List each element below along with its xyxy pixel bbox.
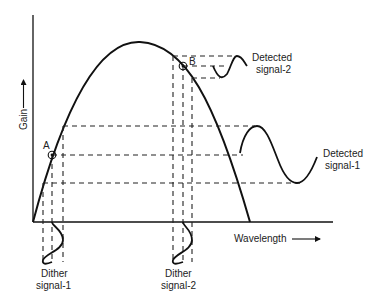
gain-wavelength-diagram: Gain Wavelength A B Detected si [0,0,381,303]
wavelength-label: Wavelength [234,233,286,244]
dither-signal-1-label-line2: signal-1 [36,280,71,291]
y-axis-label: Gain [18,80,29,130]
dither-signal-2-wave [173,222,192,264]
detected-signal-2-label-line1: Detected [252,52,292,63]
point-a-label: A [43,140,50,151]
dither-signal-1-label-line1: Dither [41,268,68,279]
dither-2-guides [173,56,237,262]
detected-signal-2-wave [213,56,247,77]
gain-curve [33,42,250,222]
detected-signal-2-label-line2: signal-2 [256,64,291,75]
dither-signal-2-label-line2: signal-2 [161,280,196,291]
gain-label: Gain [18,109,29,130]
detected-signal-1-label-line2: signal-1 [325,160,360,171]
detected-signal-1-wave [240,126,317,183]
dither-signal-1-wave [43,222,63,264]
detected-signal-1-label-line1: Detected [323,148,363,159]
dither-signal-2-label-line1: Dither [165,268,192,279]
point-b-label: B [189,56,196,67]
